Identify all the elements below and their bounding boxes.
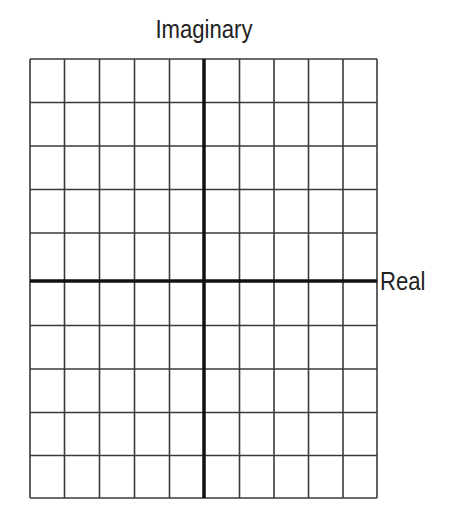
complex-plane-grid <box>0 0 451 518</box>
axes <box>30 59 377 498</box>
real-axis-label: Real <box>380 266 425 297</box>
